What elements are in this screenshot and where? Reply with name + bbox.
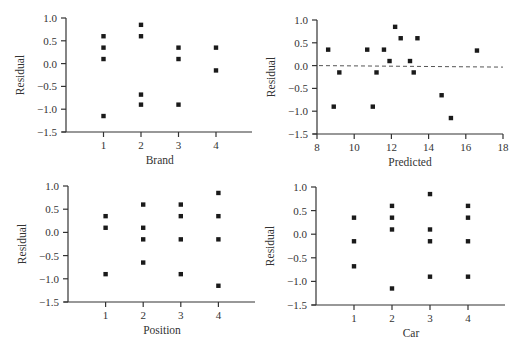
y-tick-label: 0.5 <box>45 203 59 215</box>
y-tick-label: 0.5 <box>294 37 308 49</box>
y-axis-title: Residual <box>16 224 28 264</box>
data-point-marker <box>352 264 356 268</box>
data-point-marker <box>326 47 330 51</box>
data-point-marker <box>352 215 356 219</box>
y-tick-label: −0.5 <box>287 252 307 264</box>
x-tick-label: 2 <box>138 139 144 151</box>
data-point-marker <box>408 59 412 63</box>
data-point-marker <box>352 239 356 243</box>
x-tick-label: 3 <box>427 312 433 324</box>
x-tick-label: 10 <box>349 141 361 153</box>
data-point-marker <box>216 191 220 195</box>
y-tick-label: 0.0 <box>294 60 308 72</box>
data-point-marker <box>428 239 432 243</box>
data-point-marker <box>103 226 107 230</box>
data-point-marker <box>101 45 105 49</box>
data-point-marker <box>179 202 183 206</box>
data-point-marker <box>382 47 386 51</box>
y-tick-label: 1.0 <box>293 181 307 193</box>
x-tick-label: 3 <box>178 309 184 321</box>
data-point-marker <box>176 57 180 61</box>
x-tick-label: 3 <box>176 139 182 151</box>
y-tick-label: −1.0 <box>287 275 307 287</box>
data-point-marker <box>176 45 180 49</box>
x-tick-label: 4 <box>213 139 219 151</box>
data-point-marker <box>466 204 470 208</box>
data-point-marker <box>179 272 183 276</box>
data-point-marker <box>428 227 432 231</box>
y-tick-label: 1.0 <box>45 180 59 192</box>
data-point-marker <box>390 227 394 231</box>
data-point-marker <box>390 204 394 208</box>
y-tick-label: 0.0 <box>45 226 59 238</box>
data-point-marker <box>390 215 394 219</box>
residual-plots-figure: 1.00.50.0−0.5−1.0−1.51234BrandResidual1.… <box>0 0 520 352</box>
data-point-marker <box>475 48 479 52</box>
data-point-marker <box>101 114 105 118</box>
y-axis-title: Residual <box>265 57 277 97</box>
y-tick-label: 0.0 <box>293 228 307 240</box>
data-point-marker <box>141 202 145 206</box>
data-point-marker <box>101 57 105 61</box>
data-point-marker <box>428 192 432 196</box>
data-point-marker <box>393 25 397 29</box>
x-tick-label: 4 <box>465 312 471 324</box>
data-point-marker <box>449 116 453 120</box>
y-tick-label: −1.5 <box>37 126 57 138</box>
scatter-panel-brand: 1.00.50.0−0.5−1.0−1.51234BrandResidual <box>14 12 252 166</box>
zero-reference-line <box>319 66 503 68</box>
data-point-marker <box>101 34 105 38</box>
y-tick-label: 0.5 <box>293 205 307 217</box>
x-axis-title: Predicted <box>388 156 432 168</box>
data-point-marker <box>216 214 220 218</box>
data-point-marker <box>466 215 470 219</box>
x-axis-title: Brand <box>146 154 174 166</box>
y-tick-label: −0.5 <box>39 250 59 262</box>
data-point-marker <box>412 70 416 74</box>
y-tick-label: −1.0 <box>37 103 57 115</box>
scatter-panel-car: 1.00.50.0−0.5−1.0−1.51234CarResidual <box>264 181 505 339</box>
data-point-marker <box>374 70 378 74</box>
y-tick-label: 1.0 <box>43 12 57 24</box>
y-tick-label: −1.5 <box>288 128 308 140</box>
y-tick-label: −1.5 <box>287 299 307 311</box>
data-point-marker <box>371 104 375 108</box>
scatter-panel-predicted: 1.00.50.0−0.5−1.0−1.581012141618Predicte… <box>265 14 509 168</box>
data-point-marker <box>214 45 218 49</box>
y-tick-label: 0.0 <box>43 58 57 70</box>
data-point-marker <box>387 59 391 63</box>
y-tick-label: −1.5 <box>39 296 59 308</box>
x-tick-label: 1 <box>103 309 109 321</box>
data-point-marker <box>466 239 470 243</box>
y-tick-label: −1.0 <box>288 105 308 117</box>
data-point-marker <box>179 237 183 241</box>
data-point-marker <box>141 260 145 264</box>
x-tick-label: 18 <box>498 141 510 153</box>
y-tick-label: −1.0 <box>39 273 59 285</box>
data-point-marker <box>365 47 369 51</box>
data-point-marker <box>139 92 143 96</box>
data-point-marker <box>399 36 403 40</box>
data-point-marker <box>439 93 443 97</box>
y-tick-label: 1.0 <box>294 14 308 26</box>
data-point-marker <box>428 274 432 278</box>
data-point-marker <box>390 286 394 290</box>
data-point-marker <box>466 274 470 278</box>
data-point-marker <box>141 237 145 241</box>
data-point-marker <box>139 23 143 27</box>
x-tick-label: 8 <box>314 141 320 153</box>
x-tick-label: 14 <box>423 141 435 153</box>
data-point-marker <box>179 214 183 218</box>
data-point-marker <box>337 70 341 74</box>
data-point-marker <box>332 104 336 108</box>
y-tick-label: −0.5 <box>37 80 57 92</box>
y-tick-label: −0.5 <box>288 82 308 94</box>
x-tick-label: 1 <box>101 139 107 151</box>
x-tick-label: 12 <box>386 141 397 153</box>
y-axis-title: Residual <box>14 55 26 95</box>
x-tick-label: 16 <box>460 141 472 153</box>
x-tick-label: 2 <box>389 312 395 324</box>
x-tick-label: 1 <box>351 312 357 324</box>
x-axis-title: Car <box>403 327 420 339</box>
x-tick-label: 4 <box>216 309 222 321</box>
